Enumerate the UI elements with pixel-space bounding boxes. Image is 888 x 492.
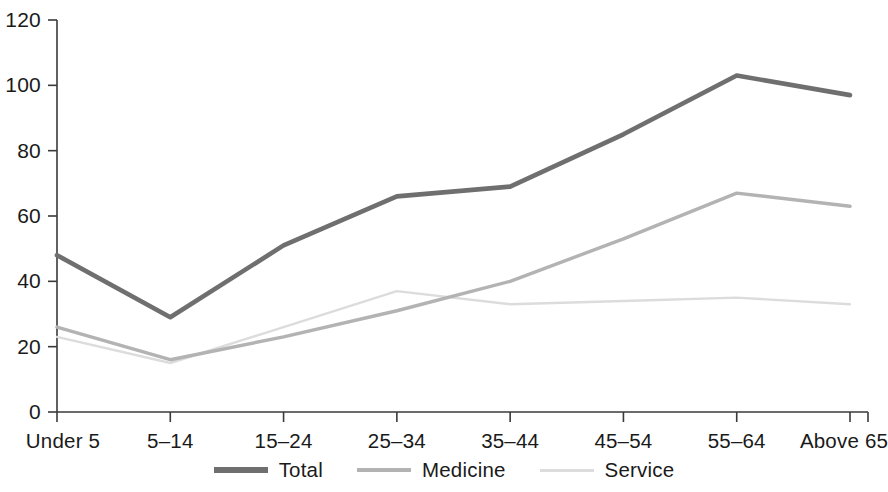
legend-item-medicine: Medicine bbox=[357, 458, 506, 482]
legend-swatch-service bbox=[540, 469, 594, 472]
x-tick-label: 25–34 bbox=[368, 429, 426, 453]
y-tick-label: 60 bbox=[0, 204, 41, 228]
x-tick-label: 35–44 bbox=[481, 429, 539, 453]
x-tick-label: 55–64 bbox=[708, 429, 766, 453]
legend-swatch-medicine bbox=[357, 468, 411, 472]
x-tick-label: 15–24 bbox=[255, 429, 313, 453]
y-tick-label: 20 bbox=[0, 335, 41, 359]
y-tick-label: 80 bbox=[0, 139, 41, 163]
legend-label-total: Total bbox=[279, 458, 323, 482]
legend-label-medicine: Medicine bbox=[422, 458, 506, 482]
x-tick-label: 45–54 bbox=[594, 429, 652, 453]
y-tick-label: 120 bbox=[0, 8, 41, 32]
series-line-service bbox=[57, 291, 850, 363]
x-tick-label: 5–14 bbox=[147, 429, 193, 453]
legend-swatch-total bbox=[214, 467, 268, 473]
y-tick-label: 100 bbox=[0, 73, 41, 97]
line-chart: 020406080100120 Under 55–1415–2425–3435–… bbox=[0, 0, 888, 492]
legend-label-service: Service bbox=[605, 458, 675, 482]
series-line-medicine bbox=[57, 193, 850, 360]
x-tick-label: Above 65 bbox=[800, 429, 888, 453]
x-tick-label: Under 5 bbox=[26, 429, 100, 453]
chart-legend: Total Medicine Service bbox=[0, 458, 888, 482]
y-tick-label: 0 bbox=[0, 400, 41, 424]
y-tick-label: 40 bbox=[0, 269, 41, 293]
chart-plot-area bbox=[0, 0, 888, 492]
legend-item-total: Total bbox=[214, 458, 323, 482]
chart-series bbox=[57, 76, 850, 363]
legend-item-service: Service bbox=[540, 458, 675, 482]
